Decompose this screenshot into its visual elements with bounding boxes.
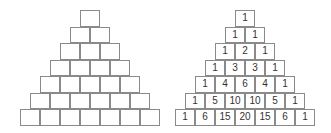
pyramid-cell — [80, 10, 100, 27]
pyramid-cell: 3 — [245, 60, 265, 77]
pyramid-cell: 1 — [175, 109, 195, 126]
pyramid-cell: 1 — [255, 43, 275, 60]
pyramid-cell: 5 — [205, 93, 225, 110]
pyramid-cell — [40, 109, 60, 126]
pyramid-cell — [30, 93, 50, 110]
pyramid-cell: 1 — [275, 76, 295, 93]
pyramid-cell — [120, 109, 140, 126]
pyramid-cell: 5 — [265, 93, 285, 110]
pyramid-cell: 10 — [225, 93, 245, 110]
pyramid-cell: 6 — [195, 109, 215, 126]
pyramid-cell: 1 — [195, 76, 215, 93]
pyramid-cell — [90, 27, 110, 44]
pyramid-cell: 6 — [235, 76, 255, 93]
pyramid-cell — [50, 60, 70, 77]
pyramid-cell: 1 — [225, 27, 245, 44]
pyramid-cell — [100, 43, 120, 60]
pyramid-cell: 6 — [275, 109, 295, 126]
pyramid-cell: 1 — [205, 60, 225, 77]
pyramid-cell — [110, 93, 130, 110]
pyramid-cell — [40, 76, 60, 93]
pyramid-cell — [120, 76, 140, 93]
pyramid-cell: 4 — [215, 76, 235, 93]
pyramid-cell — [70, 27, 90, 44]
pyramid-cell — [140, 109, 160, 126]
pyramid-cell — [100, 109, 120, 126]
pyramid-cell — [60, 109, 80, 126]
pyramid-cell: 2 — [235, 43, 255, 60]
pyramid-cell — [80, 76, 100, 93]
pyramid-cell: 1 — [245, 27, 265, 44]
pyramid-cell: 1 — [235, 10, 255, 27]
pyramid-cell: 4 — [255, 76, 275, 93]
pyramid-cell: 10 — [245, 93, 265, 110]
pyramid-cell: 1 — [285, 93, 305, 110]
pyramid-cell: 3 — [225, 60, 245, 77]
pyramid-cell — [90, 93, 110, 110]
pyramid-cell: 1 — [215, 43, 235, 60]
pyramid-cell — [80, 109, 100, 126]
pyramid-cell — [50, 93, 70, 110]
pyramid-cell — [70, 93, 90, 110]
pyramid-cell: 15 — [215, 109, 235, 126]
pyramid-cell — [100, 76, 120, 93]
pyramid-cell: 1 — [185, 93, 205, 110]
pyramid-cell — [60, 76, 80, 93]
pyramid-cell: 15 — [255, 109, 275, 126]
pyramid-cell: 1 — [295, 109, 315, 126]
pyramid-cell: 20 — [235, 109, 255, 126]
pyramid-cell — [20, 109, 40, 126]
pyramid-cell — [90, 60, 110, 77]
pyramid-cell: 1 — [265, 60, 285, 77]
pyramid-cell — [70, 60, 90, 77]
pyramid-cell — [80, 43, 100, 60]
pyramid-cell — [110, 60, 130, 77]
pyramid-cell — [130, 93, 150, 110]
pyramid-cell — [60, 43, 80, 60]
